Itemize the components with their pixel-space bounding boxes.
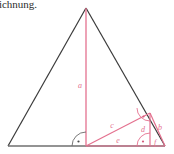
diagram-canvas: eichnung. a	[0, 0, 174, 154]
geometry-figure: a c d b e f	[0, 0, 174, 154]
label-c: c	[110, 121, 114, 130]
right-angle-marker-d-e	[137, 133, 150, 146]
label-a: a	[78, 81, 82, 90]
label-e: e	[116, 136, 120, 145]
right-angle-marker-altitude	[72, 132, 86, 146]
label-b: b	[158, 123, 162, 132]
label-d: d	[141, 125, 146, 134]
